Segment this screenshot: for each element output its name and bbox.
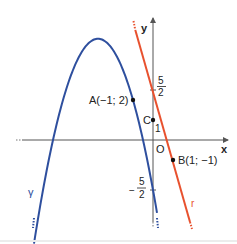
origin-label: O [156,143,165,155]
point-A: A(−1; 2) [89,94,135,106]
svg-text:2: 2 [158,87,164,98]
parabola-gamma: γ [28,39,158,244]
point-B: B(1; −1) [171,154,218,166]
tick-label-one: 1 [155,123,161,134]
svg-text:−: − [129,185,135,196]
x-axis: x [16,140,228,155]
point-B-label: B(1; −1) [178,154,217,166]
point-C-label: C [143,114,151,126]
y-axis-label: y [141,22,148,34]
point-A-label: A(−1; 2) [89,94,128,106]
svg-text:5: 5 [158,75,164,86]
svg-text:2: 2 [139,189,145,200]
tick-label-neg-five-halves: − 5 2 [129,176,146,200]
bottom-divider [0,240,237,242]
tick-label-pos-five-halves: 5 2 [157,75,166,98]
point-C: C 1 [143,114,161,134]
svg-text:5: 5 [139,176,145,187]
parabola-label: γ [28,186,34,198]
coordinate-plane: x y O 5 2 − 5 2 γ r A(−1; 2) [0,0,237,244]
line-label: r [191,198,195,209]
x-axis-label: x [221,143,228,155]
